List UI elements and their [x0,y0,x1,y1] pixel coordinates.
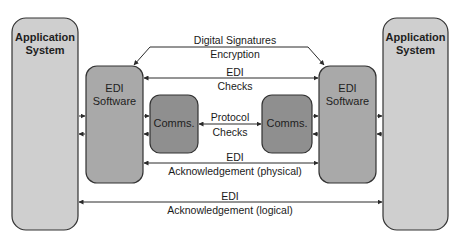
protocol-label-line1: Protocol [198,111,262,123]
security-label-line1: Digital Signatures [140,34,330,46]
right-app-label-line2: System [383,44,448,57]
right-application-system-label: Application System [383,31,448,57]
ack-logical-label-line2: Acknowledgement (logical) [130,204,330,216]
left-app-label-line1: Application [12,31,78,44]
security-label-line2: Encryption [140,48,330,60]
edi-checks-label-line2: Checks [140,80,330,92]
edi-checks-label-line1: EDI [140,66,330,78]
protocol-label-line2: Checks [198,126,262,138]
right-edi-label-line2: Software [319,95,376,108]
right-comms-label: Comms. [262,117,312,130]
left-application-system-label: Application System [12,31,78,57]
ack-physical-label-line1: EDI [140,151,330,163]
left-edi-label-line2: Software [86,95,143,108]
left-edi-label-line1: EDI [86,82,143,95]
left-comms-label: Comms. [150,117,198,130]
ack-physical-label-line2: Acknowledgement (physical) [140,165,330,177]
left-edi-software-label: EDI Software [86,82,143,108]
right-app-label-line1: Application [383,31,448,44]
ack-logical-label-line1: EDI [130,190,330,202]
left-app-label-line2: System [12,44,78,57]
